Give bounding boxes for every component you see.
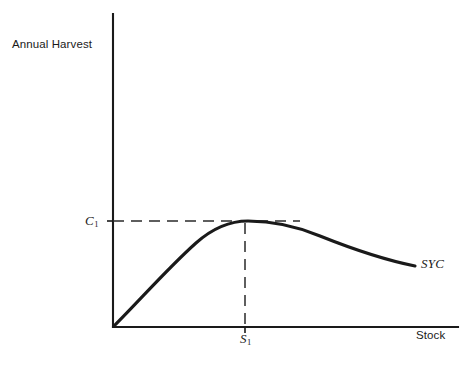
curve-label-syc: SYC — [421, 256, 444, 272]
x-axis-label: Stock — [416, 329, 445, 341]
chart-figure: Annual Harvest Stock C1 S1 SYC — [0, 0, 472, 365]
tick-label-c1-base: C — [85, 213, 94, 228]
y-axis-label: Annual Harvest — [12, 38, 92, 50]
tick-label-c1: C1 — [85, 213, 98, 229]
syc-curve — [114, 221, 415, 326]
tick-label-s1-base: S — [240, 331, 247, 346]
chart-plot-area — [0, 0, 472, 365]
tick-label-c1-subscript: 1 — [94, 219, 98, 229]
tick-label-s1-subscript: 1 — [247, 337, 251, 347]
tick-label-s1: S1 — [240, 331, 251, 347]
